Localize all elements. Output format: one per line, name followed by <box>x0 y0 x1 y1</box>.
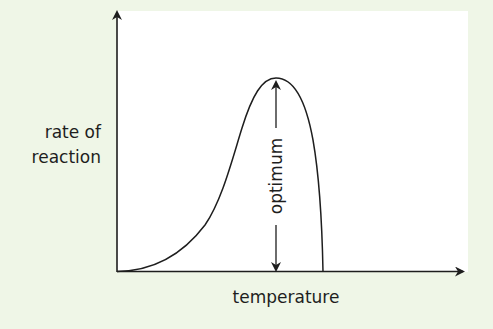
optimum-annotation: optimum <box>267 138 285 214</box>
rate-curve <box>117 78 323 272</box>
y-axis-label-line2: reaction <box>32 145 101 170</box>
x-axis-label: temperature <box>0 287 493 307</box>
y-axis-label-line1: rate of <box>32 120 101 145</box>
y-axis-label: rate of reaction <box>32 120 101 170</box>
